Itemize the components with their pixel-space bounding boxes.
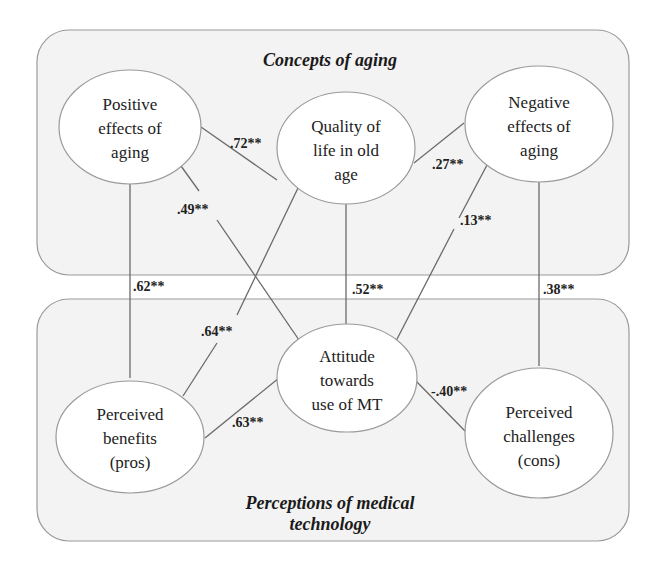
node-negative-effects-of-aging: Negative effects of aging	[465, 66, 613, 182]
group-title-concepts-of-aging: Concepts of aging	[263, 50, 397, 70]
node-attitude-towards-use-of-mt: Attitude towards use of MT	[277, 324, 417, 432]
node-perceived-benefits: Perceived benefits (pros)	[56, 381, 204, 493]
node-label-line: Quality of	[311, 117, 381, 136]
node-label-line: challenges	[503, 427, 575, 446]
edge-coefficient-quality-benefits: .64**	[201, 324, 233, 339]
node-label-line: Perceived	[96, 405, 164, 424]
node-label-line: Perceived	[505, 403, 573, 422]
edge-coefficient-attitude-challenges: -.40**	[431, 384, 467, 399]
node-label-line: age	[334, 165, 358, 184]
node-label-line: (pros)	[110, 453, 151, 472]
node-positive-effects-of-aging: Positive effects of aging	[59, 70, 201, 184]
node-label-line: (cons)	[518, 451, 560, 470]
edge-coefficient-quality-negative: .27**	[432, 157, 464, 172]
edge-coefficient-positive-attitude: .49**	[177, 202, 209, 217]
node-label-line: effects of	[98, 119, 162, 138]
node-label-line: Positive	[103, 95, 158, 114]
edge-coefficient-attitude-benefits: .63**	[232, 415, 264, 430]
edge-coefficient-quality-attitude: .52**	[352, 282, 384, 297]
node-label-line: Negative	[508, 93, 569, 112]
node-label-line: effects of	[507, 117, 571, 136]
group-title-perceptions-line-2: technology	[290, 514, 372, 534]
edge-coefficient-positive-quality: .72**	[230, 136, 262, 151]
path-diagram: Positive effects of aging Quality of lif…	[0, 0, 664, 568]
node-label-line: towards	[320, 371, 374, 390]
node-label-line: Attitude	[319, 347, 375, 366]
group-title-perceptions-line-1: Perceptions of medical	[245, 493, 415, 513]
edge-coefficient-negative-challenges: .38**	[543, 282, 575, 297]
node-label-line: use of MT	[312, 395, 383, 414]
node-quality-of-life-in-old-age: Quality of life in old age	[277, 92, 415, 204]
node-label-line: life in old	[313, 141, 380, 160]
edge-coefficient-positive-benefits: .62**	[133, 279, 165, 294]
edge-coefficient-negative-attitude: .13**	[460, 213, 492, 228]
node-label-line: benefits	[103, 429, 157, 448]
node-perceived-challenges: Perceived challenges (cons)	[465, 368, 613, 498]
node-label-line: aging	[111, 143, 149, 162]
node-label-line: aging	[520, 141, 558, 160]
